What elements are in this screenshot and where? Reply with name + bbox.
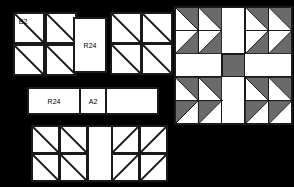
block-cell xyxy=(245,54,268,77)
piece-rectangle xyxy=(88,126,112,181)
block-cell-blank xyxy=(175,54,198,77)
block-cell xyxy=(175,30,198,53)
block-cell xyxy=(198,77,221,100)
block-cell xyxy=(175,77,198,100)
group-hst-bottomright xyxy=(112,126,167,181)
block-cell xyxy=(222,77,245,100)
block-cell xyxy=(175,7,198,30)
group-hst-topright xyxy=(111,13,172,74)
block-cell xyxy=(198,30,221,53)
block-cell xyxy=(198,7,221,30)
block-cell xyxy=(269,7,292,30)
block-cell xyxy=(269,101,292,124)
block-cell xyxy=(269,54,292,77)
strip-cell-label: A2 xyxy=(89,98,98,105)
piece-label: R24 xyxy=(84,42,97,49)
assembled-quilt-block xyxy=(175,7,292,124)
block-cell xyxy=(245,77,268,100)
group-strip-r24-a2: R24A2 xyxy=(28,88,158,114)
block-cell-blank xyxy=(198,54,221,77)
block-cell-blank xyxy=(222,30,245,53)
block-cell-blank xyxy=(222,7,245,30)
group-r24-vertical: R24 xyxy=(74,18,106,72)
block-cell-solid xyxy=(222,54,245,77)
block-cell xyxy=(245,101,268,124)
block-cell-blank xyxy=(245,54,268,77)
block-cell xyxy=(269,77,292,100)
block-cell xyxy=(222,30,245,53)
cut-pieces-legend: B2R24R24A2 xyxy=(14,13,172,181)
block-cell-blank xyxy=(269,54,292,77)
block-cell-blank xyxy=(222,77,245,100)
block-cell xyxy=(245,7,268,30)
block-cell xyxy=(269,30,292,53)
block-cell xyxy=(222,54,245,77)
block-cell xyxy=(175,54,198,77)
diagram-canvas: B2R24R24A2 xyxy=(0,0,294,187)
block-cell-blank xyxy=(222,101,245,124)
block-cell xyxy=(198,101,221,124)
block-cell xyxy=(175,101,198,124)
strip-cell-label: R24 xyxy=(48,98,61,105)
block-cell xyxy=(245,30,268,53)
strip-cell xyxy=(106,88,158,114)
group-hst-bottomleft xyxy=(32,126,87,181)
block-cell xyxy=(222,7,245,30)
piece-label: B2 xyxy=(19,18,28,25)
block-cell xyxy=(198,54,221,77)
block-cell xyxy=(222,101,245,124)
group-plain-bottomcenter xyxy=(88,126,112,181)
patchwork-diagram-svg: B2R24R24A2 xyxy=(0,0,294,187)
